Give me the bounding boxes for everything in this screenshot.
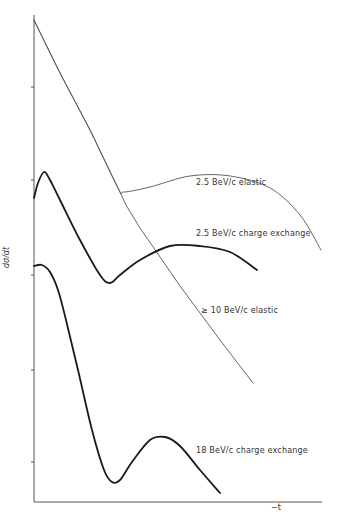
- chart-canvas: [0, 0, 338, 523]
- series-2-5-bev-c-elastic: [34, 20, 321, 250]
- series--10-bev-c-elastic: [34, 20, 253, 383]
- axes: [31, 15, 322, 502]
- label-2.5-elastic: 2.5 BeV/c elastic: [196, 178, 266, 187]
- series-18-bev-c-charge-exchange: [34, 265, 220, 493]
- y-axis-label: dσ/dt: [2, 247, 11, 268]
- label-10-elastic: ≥ 10 BeV/c elastic: [201, 306, 278, 315]
- series-2-5-bev-c-charge-exchange: [34, 172, 257, 283]
- x-axis-label: −t: [271, 503, 281, 512]
- label-18-charge-exchange: 18 BeV/c charge exchange: [196, 446, 308, 455]
- series-group: [34, 20, 321, 493]
- label-2.5-charge-exchange: 2.5 BeV/c charge exchange: [196, 229, 311, 238]
